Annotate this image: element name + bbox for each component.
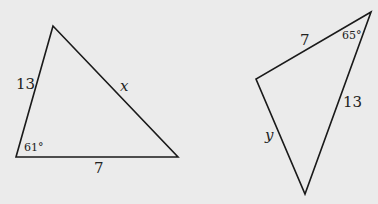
label-side-y: y bbox=[264, 126, 274, 144]
label-side-7-top: 7 bbox=[300, 31, 310, 49]
label-side-7-bottom: 7 bbox=[94, 159, 104, 177]
diagram-canvas: 13 x 7 61° 7 65° 13 y bbox=[0, 0, 378, 204]
label-side-x: x bbox=[120, 77, 129, 95]
label-side-13-left: 13 bbox=[16, 75, 35, 93]
label-angle-65: 65° bbox=[342, 29, 362, 42]
label-side-13-right: 13 bbox=[343, 93, 362, 111]
triangle-left bbox=[16, 26, 178, 157]
label-angle-61: 61° bbox=[24, 141, 44, 154]
